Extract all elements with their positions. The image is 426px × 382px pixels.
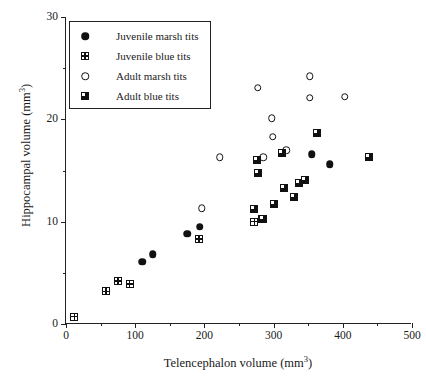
- filled-circle-icon: [81, 32, 89, 40]
- x-axis-tick: [343, 323, 344, 328]
- legend-marker-icon: [80, 51, 90, 61]
- legend-item-half-square: Adult blue tits: [70, 86, 210, 106]
- data-point: [308, 150, 316, 158]
- legend-item-label: Adult marsh tits: [116, 71, 187, 82]
- legend-item-label: Adult blue tits: [116, 91, 179, 102]
- x-axis-tick: [274, 323, 275, 328]
- y-axis-tick-label: 10: [47, 216, 59, 228]
- x-axis-tick-label: 400: [334, 330, 351, 342]
- open-circle-icon: [81, 72, 89, 80]
- data-point: [259, 215, 267, 223]
- legend-marker-icon: [80, 91, 90, 101]
- half-square-icon: [81, 92, 89, 100]
- x-axis-tick: [204, 323, 205, 328]
- data-point: [278, 149, 286, 157]
- data-point: [341, 93, 349, 101]
- data-point: [149, 251, 157, 259]
- data-point: [196, 223, 204, 231]
- legend: Juvenile marsh titsJuvenile blue titsAdu…: [69, 21, 211, 109]
- x-axis-tick: [135, 323, 136, 328]
- y-axis-title: Hippocampal volume (mm3): [18, 2, 33, 309]
- x-axis-tick-label: 500: [403, 330, 420, 342]
- x-axis-minor-tick: [170, 323, 171, 326]
- scatter-plot-figure: 01020300100200300400500 Telencephalon vo…: [0, 0, 426, 382]
- x-axis-tick-label: 100: [127, 330, 144, 342]
- legend-item-label: Juvenile marsh tits: [116, 31, 199, 42]
- data-point: [326, 161, 334, 169]
- data-point: [268, 115, 276, 123]
- y-axis-tick: [61, 222, 66, 223]
- x-axis-minor-tick: [308, 323, 309, 326]
- data-point: [254, 169, 262, 177]
- data-point: [301, 176, 309, 184]
- y-axis-title-superscript: 3: [17, 88, 27, 92]
- legend-marker-icon: [80, 71, 90, 81]
- legend-item-open-circle: Adult marsh tits: [70, 66, 210, 86]
- data-point: [183, 230, 191, 238]
- data-point: [269, 133, 277, 141]
- data-point: [102, 287, 110, 295]
- data-point: [280, 184, 288, 192]
- y-axis-tick: [61, 119, 66, 120]
- data-point: [254, 84, 262, 92]
- data-point: [216, 153, 224, 161]
- data-point: [306, 94, 314, 102]
- x-axis-minor-tick: [239, 323, 240, 326]
- data-point: [365, 153, 373, 161]
- x-axis-tick: [66, 323, 67, 328]
- data-point: [198, 205, 206, 213]
- y-axis-tick-label: 30: [47, 11, 59, 23]
- data-point: [270, 200, 278, 208]
- data-point: [313, 129, 321, 137]
- data-point: [138, 258, 146, 266]
- x-axis-title-text: Telencephalon volume (mm: [164, 356, 304, 370]
- data-point: [70, 313, 78, 321]
- legend-marker-icon: [80, 31, 90, 41]
- y-axis-title-tail: ): [19, 84, 33, 88]
- y-axis-title-text: Hippocampal volume (mm: [19, 92, 33, 227]
- legend-item-filled-circle: Juvenile marsh tits: [70, 26, 210, 46]
- y-axis-minor-tick: [63, 171, 66, 172]
- data-point: [250, 205, 258, 213]
- x-axis-minor-tick: [101, 323, 102, 326]
- y-axis-tick: [61, 17, 66, 18]
- data-point: [114, 277, 122, 285]
- y-axis-tick-label: 20: [47, 114, 59, 126]
- data-point: [253, 156, 261, 164]
- y-axis-tick-label: 0: [52, 318, 58, 330]
- y-axis-minor-tick: [63, 273, 66, 274]
- x-axis-tick-label: 200: [196, 330, 213, 342]
- x-axis-title-tail: ): [308, 356, 312, 370]
- x-axis-title: Telencephalon volume (mm3): [65, 355, 411, 370]
- data-point: [126, 280, 134, 288]
- data-point: [306, 73, 314, 81]
- data-point: [195, 235, 203, 243]
- legend-item-grid-square: Juvenile blue tits: [70, 46, 210, 66]
- x-axis-tick-label: 300: [265, 330, 282, 342]
- y-axis-minor-tick: [63, 68, 66, 69]
- data-point: [290, 193, 298, 201]
- legend-item-label: Juvenile blue tits: [116, 51, 191, 62]
- x-axis-tick: [412, 323, 413, 328]
- x-axis-tick-label: 0: [63, 330, 69, 342]
- grid-square-icon: [81, 52, 89, 60]
- x-axis-minor-tick: [377, 323, 378, 326]
